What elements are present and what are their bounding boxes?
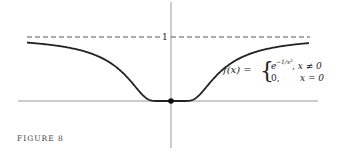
formula: f(x) = { e −1/x² , x ≠ 0 0, x = 0 [222,58,324,83]
case2-expr: 0, [271,73,280,83]
asymptote-label: 1 [162,32,168,42]
case1-exponent: −1/x² [276,58,293,65]
formula-lhs: f(x) = [222,64,252,75]
case2-condition: x = 0 [300,73,324,83]
figure-caption: FIGURE 8 [17,134,64,143]
case1-condition: , x ≠ 0 [292,61,322,71]
origin-point [168,98,174,104]
